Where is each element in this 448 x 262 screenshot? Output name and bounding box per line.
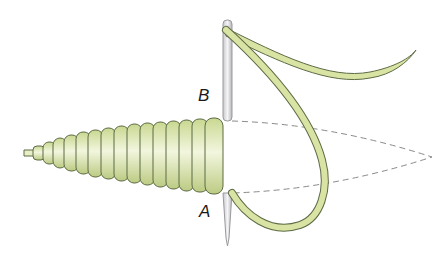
label-b: B bbox=[198, 86, 209, 106]
coil-cone bbox=[24, 118, 223, 194]
label-a: A bbox=[199, 202, 210, 222]
stitch-illustration bbox=[0, 0, 448, 262]
dashed-outline bbox=[232, 121, 432, 193]
needle-lower bbox=[223, 193, 232, 246]
